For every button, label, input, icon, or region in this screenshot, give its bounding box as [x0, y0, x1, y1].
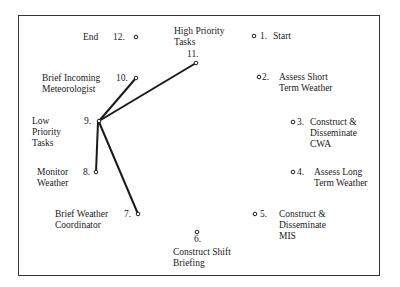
node-6-number: 6.: [194, 234, 201, 245]
node-11-label: High Priority Tasks: [174, 26, 224, 48]
edge-9-11: [99, 63, 196, 121]
node-1-label: Start: [273, 31, 291, 42]
node-11-marker: [194, 61, 198, 65]
node-9-label: Low Priority Tasks: [32, 116, 61, 149]
node-2-marker: [257, 75, 261, 79]
node-5-marker: [253, 212, 257, 216]
node-5-number: 5.: [260, 209, 267, 220]
node-4-marker: [291, 170, 295, 174]
node-4-label: Assess Long Term Weather: [314, 167, 368, 189]
edge-9-8: [96, 122, 98, 172]
node-5-label: Construct & Disseminate MIS: [279, 209, 326, 242]
node-9-marker: [97, 119, 101, 123]
node-6-label: Construct Shift Briefing: [173, 247, 231, 269]
node-7-number: 7.: [124, 209, 131, 220]
node-7-marker: [136, 212, 140, 216]
edge-9-7: [99, 122, 138, 214]
node-3-label: Construct & Disseminate CWA: [310, 117, 357, 150]
node-12-number: 12.: [113, 32, 125, 43]
node-8-number: 8.: [83, 167, 90, 178]
node-2-number: 2.: [262, 72, 269, 83]
node-4-number: 4.: [297, 167, 304, 178]
node-3-marker: [291, 120, 295, 124]
node-8-marker: [94, 170, 98, 174]
node-12-marker: [134, 35, 138, 39]
node-10-label: Brief Incoming Meteorologist: [42, 73, 100, 95]
node-12-label: End: [83, 32, 98, 43]
node-1-marker: [252, 34, 256, 38]
node-10-number: 10.: [116, 73, 128, 84]
node-11-number: 11.: [187, 49, 199, 60]
node-2-label: Assess Short Term Weather: [279, 72, 333, 94]
node-3-number: 3.: [297, 117, 304, 128]
node-10-marker: [134, 76, 138, 80]
edge-9-10: [99, 78, 136, 121]
node-9-number: 9.: [84, 116, 91, 127]
node-8-label: Monitor Weather: [37, 167, 68, 189]
node-1-number: 1.: [260, 31, 267, 42]
node-7-label: Brief Weather Coordinator: [55, 209, 108, 231]
